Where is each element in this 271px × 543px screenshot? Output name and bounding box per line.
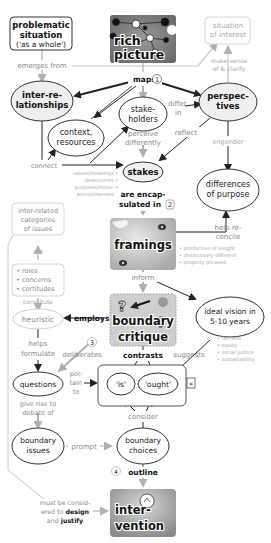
node-framings[interactable]: framings bbox=[110, 218, 176, 270]
node-rich-picture[interactable]: rich picture bbox=[110, 15, 177, 63]
node-problematic-situation[interactable]: problematic situation ('as a whole') bbox=[10, 17, 72, 50]
label-helps-formulate: helps bbox=[29, 340, 48, 348]
label-perceive-differently: perceive bbox=[128, 130, 158, 138]
svg-text:and justify: and justify bbox=[47, 517, 83, 525]
svg-text:resources: resources bbox=[57, 138, 96, 147]
svg-text:3: 3 bbox=[90, 339, 94, 347]
node-is[interactable]: 'is' bbox=[107, 373, 135, 395]
step-2-badge: 2 bbox=[166, 200, 174, 209]
node-heuristic[interactable]: heuristic bbox=[13, 309, 63, 329]
label-are-encapsulated-in: are encap- bbox=[121, 190, 166, 199]
svg-text:critique: critique bbox=[118, 330, 168, 344]
node-boundary-issues[interactable]: boundary issues bbox=[12, 428, 64, 464]
node-categories-list[interactable]: • roles • concerns • certitudes bbox=[12, 264, 64, 296]
stakes-bullets: values/meanings • bbox=[73, 171, 118, 176]
svg-text:('as a whole'): ('as a whole') bbox=[16, 40, 66, 49]
label-emerges-from: emerges from bbox=[17, 62, 66, 70]
svg-text:questions: questions bbox=[20, 380, 56, 389]
svg-text:purposes/motiv- •: purposes/motiv- • bbox=[75, 185, 118, 190]
svg-text:stake-: stake- bbox=[131, 105, 155, 114]
svg-text:in: in bbox=[175, 109, 181, 117]
svg-text:situation: situation bbox=[213, 22, 243, 30]
step-1-badge: 1 bbox=[153, 75, 162, 85]
node-perspectives[interactable]: perspec- tives bbox=[199, 83, 257, 121]
svg-text:of interest: of interest bbox=[210, 31, 246, 39]
svg-text:context,: context, bbox=[60, 128, 93, 137]
svg-text:• social justice: • social justice bbox=[217, 349, 254, 356]
svg-text:?: ? bbox=[118, 298, 126, 314]
node-context-resources[interactable]: context, resources bbox=[48, 120, 104, 156]
svg-text:formulate: formulate bbox=[21, 350, 55, 358]
svg-text:boundary: boundary bbox=[125, 436, 161, 445]
node-ought[interactable]: 'ought' bbox=[138, 373, 178, 395]
label-contrasts: contrasts bbox=[123, 351, 163, 360]
svg-text:of issues: of issues bbox=[24, 225, 53, 233]
node-questions[interactable]: questions bbox=[13, 372, 63, 396]
label-give-rise: give rise to bbox=[20, 400, 56, 408]
svg-text:• sustainability: • sustainability bbox=[217, 356, 255, 363]
svg-text:tain: tain bbox=[70, 379, 82, 387]
node-differences-of-purpose[interactable]: differences of purpose bbox=[197, 169, 259, 211]
svg-text:4: 4 bbox=[114, 468, 118, 475]
svg-text:categories: categories bbox=[21, 216, 56, 224]
node-intervention[interactable]: inter- vention bbox=[110, 489, 176, 537]
label-prompt: prompt bbox=[71, 443, 97, 451]
svg-text:• certitudes: • certitudes bbox=[16, 285, 55, 293]
label-are: are bbox=[33, 247, 43, 254]
svg-text:holders: holders bbox=[128, 115, 158, 124]
svg-text:debate of: debate of bbox=[22, 409, 54, 417]
label-make-sense: make sense bbox=[211, 57, 247, 64]
svg-text:5-10 years: 5-10 years bbox=[210, 317, 250, 326]
node-stakes[interactable]: stakes bbox=[123, 162, 163, 182]
label-inform: inform bbox=[132, 274, 155, 282]
svg-text:of & clarify: of & clarify bbox=[213, 65, 246, 73]
double-chevron-left-icon: « bbox=[189, 379, 194, 388]
node-boundary-critique[interactable]: ? ? boundary critique bbox=[110, 294, 176, 346]
svg-text:ations/interests: ations/interests bbox=[77, 192, 115, 197]
node-interrelated-categories[interactable]: inter-related categories of issues bbox=[12, 203, 64, 235]
label-pertain-to: per- bbox=[70, 370, 83, 378]
label-connect: connect bbox=[31, 162, 57, 170]
node-situation-of-interest[interactable]: situation of interest bbox=[205, 17, 250, 44]
svg-text:rich: rich bbox=[114, 33, 141, 48]
svg-text:differences: differences bbox=[206, 180, 250, 189]
svg-text:issues: issues bbox=[26, 446, 49, 455]
svg-text:of purpose: of purpose bbox=[207, 190, 250, 199]
label-help-reconcile: help re- bbox=[215, 224, 242, 232]
node-boundary-choices[interactable]: boundary choices bbox=[117, 428, 169, 464]
svg-text:boundary: boundary bbox=[20, 436, 56, 445]
label-employs: employs bbox=[74, 314, 110, 323]
svg-text:sulated in: sulated in bbox=[119, 200, 161, 209]
svg-text:'ought': 'ought' bbox=[145, 380, 171, 389]
label-deliberates: deliberates bbox=[62, 351, 102, 359]
step-4-badge: 4 bbox=[112, 467, 121, 476]
svg-text:heuristic: heuristic bbox=[22, 315, 54, 324]
label-consider: consider bbox=[128, 413, 158, 421]
svg-text:situation: situation bbox=[20, 30, 63, 40]
step-3-badge: 3 bbox=[88, 338, 97, 348]
svg-text:• concerns: • concerns bbox=[16, 276, 52, 284]
svg-text:1: 1 bbox=[155, 76, 159, 84]
concept-map: problematic situation ('as a whole') ric… bbox=[0, 0, 271, 543]
svg-text:concile: concile bbox=[216, 233, 241, 241]
svg-text:2: 2 bbox=[168, 201, 172, 209]
svg-text:problematic: problematic bbox=[12, 20, 70, 30]
node-ideal-vision[interactable]: ideal vision in 5-10 years bbox=[196, 297, 264, 337]
label-constitute: constitute bbox=[23, 298, 53, 305]
svg-text:stakes: stakes bbox=[127, 167, 158, 177]
node-stakeholders[interactable]: stake- holders bbox=[119, 97, 167, 131]
label-reflect: reflect bbox=[175, 129, 198, 137]
label-differ-in: differ bbox=[168, 100, 187, 108]
node-interrelationships[interactable]: inter-re- lationships bbox=[11, 81, 73, 121]
svg-text:perspec-: perspec- bbox=[207, 91, 249, 101]
svg-text:to: to bbox=[73, 388, 80, 396]
svg-text:lationships: lationships bbox=[16, 100, 69, 110]
collapse-button[interactable]: « bbox=[187, 378, 195, 388]
svg-text:framings: framings bbox=[114, 238, 172, 252]
svg-text:boundary: boundary bbox=[112, 314, 174, 328]
svg-text:tives: tives bbox=[216, 101, 239, 111]
svg-text:choices: choices bbox=[129, 446, 157, 455]
svg-text:'is': 'is' bbox=[116, 380, 126, 389]
svg-text:differently: differently bbox=[125, 139, 161, 147]
label-outline: outline bbox=[128, 468, 158, 477]
